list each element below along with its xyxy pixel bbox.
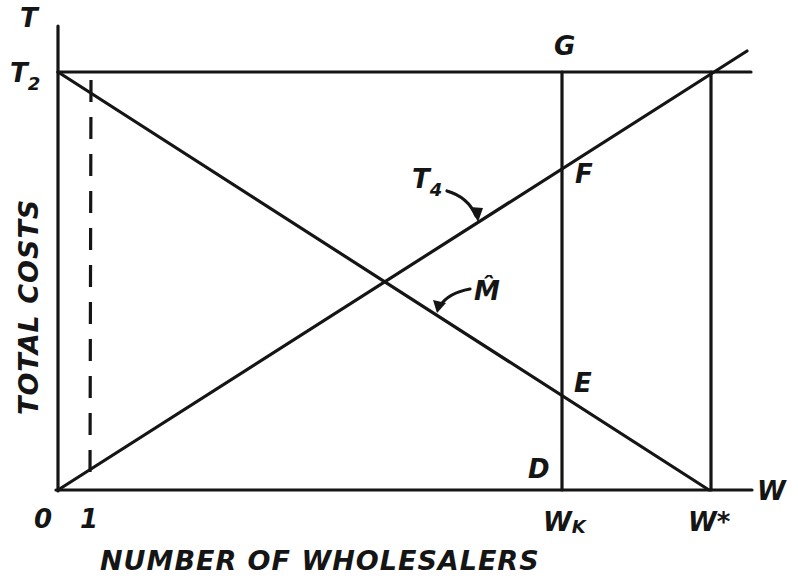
- total-costs-diagram: T W T2 0 1 WK W* T4 M̂ G F E D TOTAL COS…: [0, 0, 798, 581]
- point-f-label: F: [575, 159, 593, 189]
- x-tick-1: 1: [80, 504, 98, 534]
- x-tick-wk-main: W: [543, 507, 573, 537]
- dashed-line-at-1: [90, 80, 91, 476]
- m-hat-curve-label: M̂: [474, 275, 500, 306]
- x-axis-symbol: W: [757, 476, 787, 506]
- t4-line: [58, 51, 747, 490]
- x-tick-wstar: W*: [688, 507, 731, 537]
- point-d-label: D: [528, 454, 550, 484]
- x-tick-0: 0: [34, 504, 52, 534]
- t2-tick-subscript: 2: [28, 73, 41, 94]
- t4-curve-label: T4: [412, 164, 442, 200]
- y-axis-title: TOTAL COSTS: [13, 199, 44, 415]
- t4-pointer-arrow: [447, 191, 476, 216]
- point-g-label: G: [554, 31, 575, 61]
- y-axis-symbol: T: [20, 3, 40, 33]
- t4-label-subscript: 4: [429, 179, 443, 200]
- x-tick-wk: WK: [543, 507, 588, 537]
- x-tick-wk-subscript: K: [572, 516, 588, 537]
- point-e-label: E: [574, 368, 592, 398]
- t2-tick-label: T2: [10, 58, 40, 94]
- x-axis-title: NUMBER OF WHOLESALERS: [100, 545, 540, 576]
